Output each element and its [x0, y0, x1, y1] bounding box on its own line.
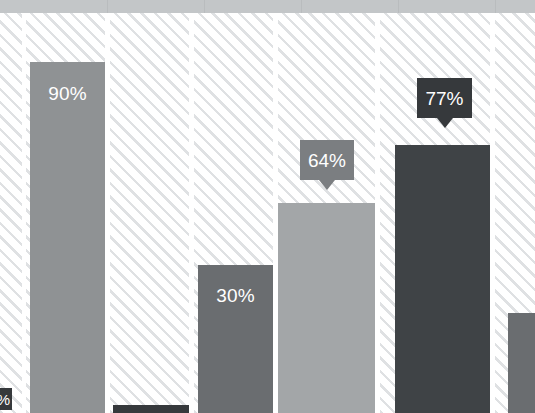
callout-pointer-icon: [319, 180, 335, 190]
callout-value-label: 77%: [425, 89, 463, 108]
bar-value-label: 90%: [30, 84, 105, 103]
header-band-segment: [302, 0, 399, 13]
chart-column-3[interactable]: 30%: [194, 13, 273, 413]
chart-column-0[interactable]: [0, 13, 22, 413]
bar-64[interactable]: [278, 203, 375, 413]
bar-77[interactable]: [395, 145, 490, 413]
bar-90[interactable]: 90%: [30, 62, 105, 413]
bar-value-label: 30%: [198, 286, 273, 305]
edge-callout-label: %: [0, 392, 10, 407]
chart-column-4[interactable]: 64%: [278, 13, 375, 413]
header-band-segment: [0, 0, 108, 13]
bar-chart: 90% 30% 64% 77%: [0, 0, 535, 413]
header-band-segment: [496, 0, 535, 13]
plot-area: 90% 30% 64% 77%: [0, 13, 535, 413]
bar-30[interactable]: 30%: [198, 265, 273, 413]
bar-right-partial[interactable]: [508, 313, 535, 413]
header-band-segment: [108, 0, 205, 13]
callout-pointer-icon: [437, 118, 453, 128]
callout-value-label: 64%: [308, 151, 346, 170]
callout-77[interactable]: 77%: [417, 78, 472, 118]
chart-header-band: [0, 0, 535, 13]
chart-column-1[interactable]: 90%: [26, 13, 105, 413]
chart-column-2[interactable]: [110, 13, 189, 413]
header-band-segment: [399, 0, 496, 13]
edge-callout-badge[interactable]: %: [0, 388, 12, 410]
chart-column-6[interactable]: [495, 13, 535, 413]
callout-64[interactable]: 64%: [300, 140, 354, 180]
chart-column-5[interactable]: 77%: [380, 13, 490, 413]
bar-near-zero[interactable]: [113, 405, 189, 413]
header-band-segment: [205, 0, 302, 13]
